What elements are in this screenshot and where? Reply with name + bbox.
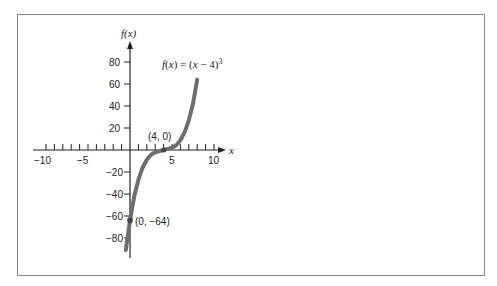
y-tick-label: −60 — [106, 211, 123, 222]
x-axis-arrow-icon — [218, 147, 226, 153]
intercept-point — [127, 218, 133, 224]
y-tick-label: −20 — [106, 167, 123, 178]
function-label: f(x) = (x − 4)3 — [162, 57, 222, 71]
x-axis-label: x — [228, 144, 234, 156]
x-tick-label: −10 — [34, 155, 51, 166]
y-tick-label: 40 — [109, 101, 121, 112]
x-tick-label: −5 — [77, 155, 89, 166]
y-tick-label: −80 — [106, 233, 123, 244]
intercept-annotation: (0, −64) — [135, 216, 170, 227]
x-tick-label: 10 — [208, 155, 220, 166]
root-point — [161, 148, 166, 153]
y-tick-label: −40 — [106, 189, 123, 200]
x-tick-label: 5 — [169, 155, 175, 166]
y-tick-label: 20 — [109, 123, 121, 134]
y-tick-label: 80 — [109, 57, 121, 68]
y-axis-arrow-icon — [127, 41, 133, 49]
chart: x −10 −5 5 10 f(x) 80 60 40 20 −20 −40 −… — [0, 0, 497, 286]
y-axis-label: f(x) — [121, 27, 137, 40]
y-tick-label: 60 — [109, 79, 121, 90]
root-annotation: (4, 0) — [148, 131, 171, 142]
